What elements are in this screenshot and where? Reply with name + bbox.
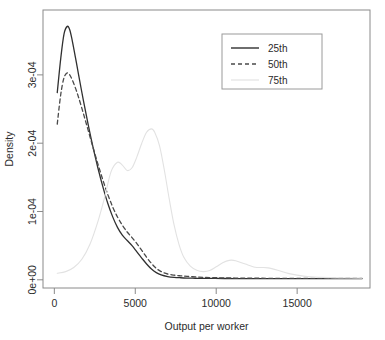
series-line-75th xyxy=(57,129,362,278)
density-plot-figure: 050001000015000 0e+001e-042e-043e-04 25t… xyxy=(0,0,385,340)
y-axis-ticks: 0e+001e-042e-043e-04 xyxy=(26,61,43,294)
x-tick-label: 15000 xyxy=(283,297,312,309)
y-axis-label: Density xyxy=(3,131,15,167)
y-tick-label: 2e-04 xyxy=(26,130,38,157)
y-tick-label: 1e-04 xyxy=(26,198,38,225)
x-axis-label: Output per worker xyxy=(164,320,249,332)
y-tick-label: 0e+00 xyxy=(26,265,38,295)
series-line-50th xyxy=(57,73,362,279)
chart-legend[interactable]: 25th50th75th xyxy=(222,34,322,89)
legend-label-75th[interactable]: 75th xyxy=(268,75,287,86)
chart-canvas: 050001000015000 0e+001e-042e-043e-04 25t… xyxy=(0,0,385,340)
x-tick-label: 10000 xyxy=(202,297,231,309)
legend-label-50th[interactable]: 50th xyxy=(268,59,287,70)
x-tick-label: 5000 xyxy=(124,297,148,309)
x-tick-label: 0 xyxy=(51,297,57,309)
x-axis-ticks: 050001000015000 xyxy=(51,288,312,309)
legend-label-25th[interactable]: 25th xyxy=(268,43,287,54)
y-tick-label: 3e-04 xyxy=(26,61,38,88)
